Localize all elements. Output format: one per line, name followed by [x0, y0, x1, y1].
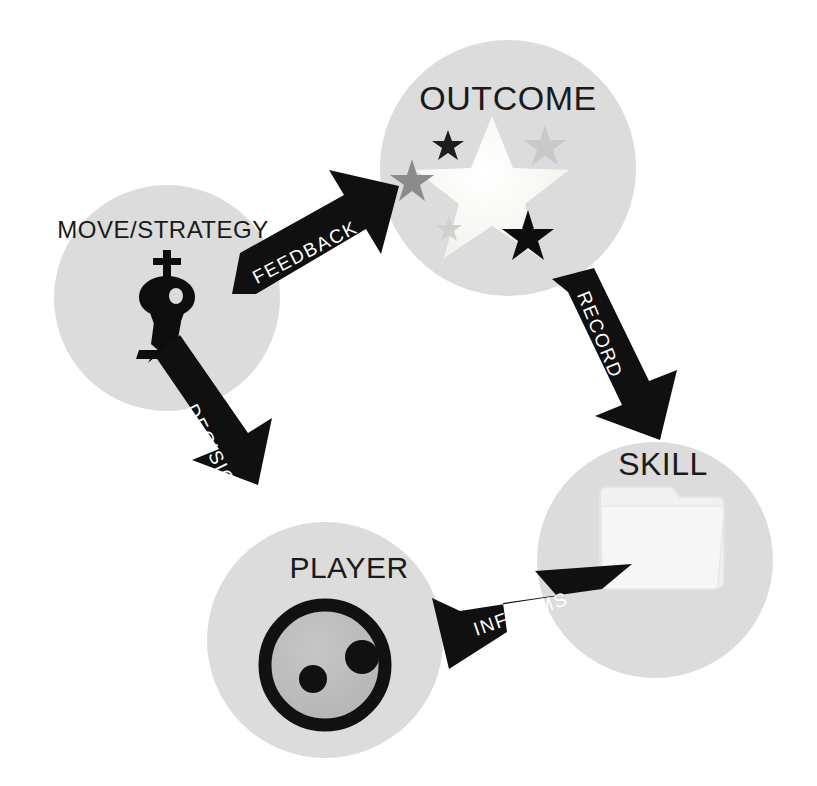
- face-icon: [265, 605, 385, 725]
- cycle-diagram: OUTCOME MOVE/STRATEGY SKILL PLAYER FEEDB…: [0, 0, 817, 786]
- king-cross-horizontal: [153, 258, 181, 265]
- node-player-label: PLAYER: [289, 551, 408, 584]
- node-outcome-label: OUTCOME: [419, 79, 596, 117]
- face-eye-left: [299, 665, 327, 693]
- king-head-highlight: [169, 288, 183, 304]
- folder-front: [601, 506, 724, 589]
- face-eye-right: [345, 640, 379, 674]
- diagram-canvas: OUTCOME MOVE/STRATEGY SKILL PLAYER FEEDB…: [0, 0, 817, 786]
- node-move-strategy-label: MOVE/STRATEGY: [57, 216, 268, 243]
- king-head: [139, 276, 195, 317]
- node-skill-label: SKILL: [618, 446, 708, 482]
